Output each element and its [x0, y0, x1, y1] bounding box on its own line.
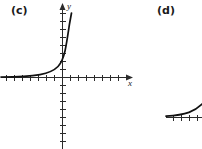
x-axis-arrowhead	[126, 75, 133, 81]
plot-svg	[0, 0, 202, 149]
exponential-curve-d	[166, 104, 202, 116]
panel-c-axes	[1, 3, 134, 149]
figure-canvas: (c) (d) y x	[0, 0, 202, 149]
y-axis-arrowhead	[60, 3, 66, 10]
panel-d-axes	[166, 104, 202, 121]
